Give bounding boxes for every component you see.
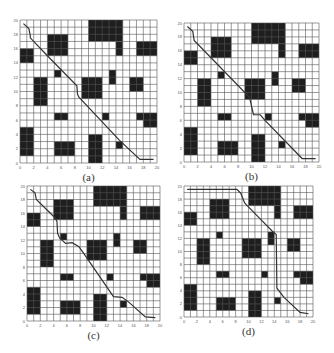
grid-map: 0246810121416182002468101214161820: [184, 186, 313, 317]
y-tick-label: 16: [178, 48, 183, 53]
obstacle: [216, 232, 222, 239]
y-tick-label: 4: [16, 132, 19, 137]
y-tick-label: 6: [16, 118, 19, 123]
y-tick-label: 6: [180, 275, 183, 280]
x-tick-label: 2: [39, 323, 42, 328]
y-tick-label: 10: [178, 90, 183, 95]
x-tick-label: 20: [158, 323, 163, 328]
grid-map: 0246810121416182002468101214161820: [20, 20, 157, 163]
obstacle: [274, 297, 280, 304]
x-tick-label: 16: [131, 323, 136, 328]
x-tick-label: 12: [259, 319, 264, 324]
x-tick-label: 8: [79, 323, 82, 328]
obstacle: [94, 186, 127, 206]
x-tick-label: 6: [223, 164, 226, 169]
x-tick-label: 6: [222, 319, 225, 324]
x-tick-label: 18: [303, 164, 308, 169]
y-tick-label: 12: [14, 75, 19, 80]
x-tick-label: 4: [210, 164, 213, 169]
y-tick-label: 18: [178, 34, 183, 39]
x-tick-label: 0: [19, 165, 22, 170]
y-tick-label: 2: [180, 301, 183, 306]
x-tick-label: 0: [183, 164, 186, 169]
x-tick-label: 0: [26, 323, 29, 328]
obstacle: [54, 200, 74, 220]
obstacle: [136, 113, 143, 120]
obstacle: [218, 72, 225, 79]
x-tick-label: 16: [290, 164, 295, 169]
x-tick-label: 16: [127, 165, 132, 170]
y-tick-label: 16: [21, 211, 26, 216]
x-tick-label: 6: [66, 323, 69, 328]
obstacle: [252, 23, 286, 44]
y-tick-label: 20: [178, 21, 183, 26]
grid-map: 0246810121416182002468101214161820: [184, 23, 319, 162]
x-tick-label: 10: [246, 319, 251, 324]
y-tick-label: 12: [178, 236, 183, 241]
obstacle: [261, 271, 267, 278]
y-tick-label: 4: [23, 292, 26, 297]
obstacle: [294, 271, 300, 278]
y-tick-label: 14: [178, 62, 183, 67]
x-tick-label: 2: [33, 165, 36, 170]
y-tick-label: 2: [16, 146, 19, 151]
obstacle: [249, 186, 281, 206]
y-tick-label: 16: [178, 210, 183, 215]
y-tick-label: 20: [14, 18, 19, 23]
y-tick-label: 12: [178, 76, 183, 81]
y-tick-label: 16: [14, 46, 19, 51]
x-tick-label: 2: [196, 164, 199, 169]
panel-caption-b: (b): [237, 170, 267, 182]
obstacle: [265, 113, 272, 120]
y-tick-label: 18: [14, 32, 19, 37]
y-tick-label: 8: [180, 104, 183, 109]
obstacle: [47, 34, 68, 55]
x-tick-label: 8: [234, 319, 237, 324]
x-tick-label: 20: [155, 165, 160, 170]
x-tick-label: 10: [249, 164, 254, 169]
grid-map-panel-d: 0246810121416182002468101214161820: [184, 186, 313, 317]
x-tick-label: 12: [105, 323, 110, 328]
y-tick-label: 10: [178, 249, 183, 254]
y-tick-label: 14: [14, 60, 19, 65]
obstacle: [242, 238, 261, 258]
y-tick-label: 14: [178, 223, 183, 228]
x-tick-label: 4: [209, 319, 212, 324]
y-tick-label: 4: [180, 132, 183, 137]
x-tick-label: 20: [317, 164, 322, 169]
y-tick-label: 14: [21, 224, 26, 229]
obstacle: [87, 240, 107, 260]
y-tick-label: 6: [180, 118, 183, 123]
obstacle: [89, 20, 123, 41]
obstacle: [140, 274, 147, 281]
obstacle: [102, 113, 109, 120]
obstacle: [299, 113, 306, 120]
y-tick-label: 18: [178, 197, 183, 202]
grid-map-panel-a: 0246810121416182002468101214161820: [20, 20, 157, 163]
x-tick-label: 14: [114, 165, 119, 170]
x-tick-label: 6: [60, 165, 63, 170]
panel-caption-d: (d): [234, 325, 264, 337]
y-tick-label: 20: [21, 184, 26, 189]
y-tick-label: 10: [21, 251, 26, 256]
y-tick-label: 8: [180, 262, 183, 267]
y-tick-label: 2: [23, 305, 26, 310]
y-tick-label: 2: [180, 146, 183, 151]
grid-map-panel-b: 0246810121416182002468101214161820: [184, 23, 319, 162]
obstacle: [211, 37, 231, 58]
x-tick-label: 18: [144, 323, 149, 328]
y-tick-label: 8: [16, 103, 19, 108]
x-tick-label: 10: [91, 323, 96, 328]
y-tick-label: 4: [180, 288, 183, 293]
y-tick-label: 6: [23, 278, 26, 283]
x-tick-label: 18: [298, 319, 303, 324]
x-tick-label: 4: [46, 165, 49, 170]
obstacle: [54, 70, 61, 77]
x-tick-label: 16: [285, 319, 290, 324]
x-tick-label: 8: [74, 165, 77, 170]
x-tick-label: 20: [311, 319, 316, 324]
x-tick-label: 10: [86, 165, 91, 170]
y-tick-label: 18: [21, 197, 26, 202]
x-tick-label: 12: [100, 165, 105, 170]
y-tick-label: 20: [178, 184, 183, 189]
